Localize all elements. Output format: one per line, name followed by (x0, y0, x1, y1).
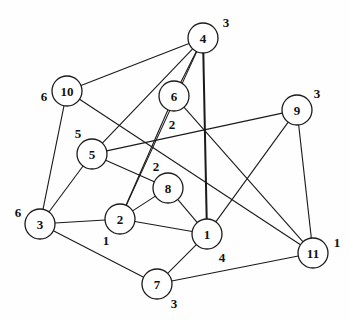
graph-edge-9-11 (299, 125, 312, 238)
node-weight-label-6: 2 (169, 117, 176, 132)
graph-svg: 4106958321117 36235261413 (0, 0, 350, 320)
node-weight-label-5: 5 (75, 126, 82, 141)
graph-node-7[interactable]: 7 (142, 269, 172, 299)
graph-edge-10-3 (43, 106, 64, 210)
node-weight-label-3: 6 (15, 205, 22, 220)
graph-edge-4-6 (181, 51, 197, 82)
node-circle-10[interactable] (52, 76, 82, 106)
graph-edge-7-11 (172, 256, 299, 281)
graph-node-8[interactable]: 8 (153, 173, 183, 203)
graph-edge-3-7 (53, 231, 143, 277)
graph-node-1[interactable]: 1 (192, 219, 222, 249)
graph-node-10[interactable]: 10 (52, 76, 82, 106)
node-weight-label-10: 6 (41, 89, 48, 104)
nodes-layer: 4106958321117 (25, 23, 328, 299)
graph-edge-4-10 (81, 43, 189, 85)
graph-edge-9-1 (216, 122, 288, 222)
node-weight-label-4: 3 (223, 15, 230, 30)
graph-node-3[interactable]: 3 (25, 209, 55, 239)
graph-node-4[interactable]: 4 (188, 23, 218, 53)
graph-node-11[interactable]: 11 (298, 238, 328, 268)
node-weight-label-9: 3 (314, 86, 321, 101)
graph-edge-5-3 (49, 166, 83, 212)
node-circle-1[interactable] (192, 219, 222, 249)
node-circle-8[interactable] (153, 173, 183, 203)
graph-node-9[interactable]: 9 (282, 95, 312, 125)
node-circle-4[interactable] (188, 23, 218, 53)
node-weight-label-2: 1 (103, 233, 110, 248)
node-weight-label-8: 2 (153, 159, 160, 174)
graph-edge-4-1 (203, 53, 206, 219)
graph-node-5[interactable]: 5 (77, 139, 107, 169)
graph-edge-2-1 (135, 222, 192, 232)
graph-node-2[interactable]: 2 (105, 204, 135, 234)
node-circle-9[interactable] (282, 95, 312, 125)
node-weight-label-1: 4 (219, 250, 226, 265)
node-circle-6[interactable] (159, 81, 189, 111)
graph-edge-3-2 (55, 220, 105, 223)
graph-edge-5-8 (106, 160, 155, 182)
node-circle-11[interactable] (298, 238, 328, 268)
node-circle-2[interactable] (105, 204, 135, 234)
graph-edge-8-2 (133, 196, 156, 211)
node-circle-7[interactable] (142, 269, 172, 299)
graph-diagram-canvas: 4106958321117 36235261413 (0, 0, 350, 320)
node-weight-label-7: 3 (171, 296, 178, 311)
node-circle-3[interactable] (25, 209, 55, 239)
node-weight-label-11: 1 (334, 235, 341, 250)
node-weight-labels-layer: 36235261413 (15, 15, 341, 311)
graph-node-6[interactable]: 6 (159, 81, 189, 111)
graph-edge-8-1 (178, 199, 198, 222)
graph-edge-1-7 (168, 245, 197, 274)
node-circle-5[interactable] (77, 139, 107, 169)
